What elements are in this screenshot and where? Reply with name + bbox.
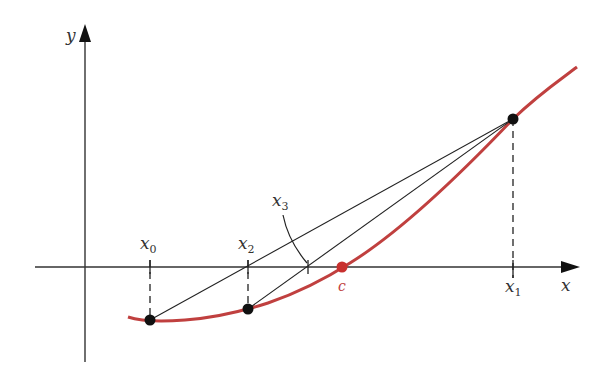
- secant-lines: [150, 119, 513, 320]
- x1-label: x1: [505, 276, 522, 299]
- root-label-c: c: [338, 278, 346, 294]
- point-x2: [243, 304, 254, 315]
- x3-pointer-arc: [283, 215, 307, 263]
- secant-x2-x1: [248, 119, 513, 309]
- secant-method-diagram: y x x0 x2 x3 x1 c: [0, 0, 609, 379]
- x2-label: x2: [238, 233, 255, 256]
- y-axis-label: y: [65, 25, 76, 45]
- labels: y x x0 x2 x3 x1 c: [65, 25, 571, 299]
- x3-label: x3: [272, 190, 289, 213]
- x-axis-label: x: [561, 275, 571, 295]
- y-axis-arrow-icon: [79, 24, 91, 42]
- x-axis-arrow-icon: [561, 261, 580, 273]
- secant-x0-x1: [150, 119, 513, 320]
- root-point-c: [337, 262, 348, 273]
- axes: [35, 24, 580, 362]
- point-x0: [145, 315, 156, 326]
- point-x1: [508, 114, 519, 125]
- x0-label: x0: [140, 233, 157, 256]
